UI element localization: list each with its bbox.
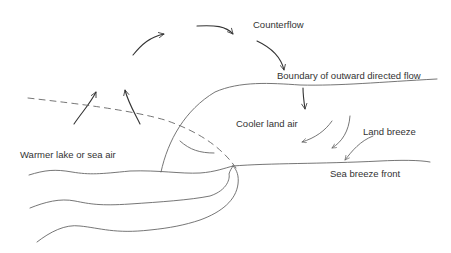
sea-breeze-front-line (233, 160, 430, 166)
rising-arrow-left-icon (74, 92, 96, 124)
label-warmer-air: Warmer lake or sea air (20, 150, 116, 160)
label-sea-breeze-front: Sea breeze front (330, 169, 400, 179)
land-breeze-arrow-2-icon (332, 116, 350, 148)
rising-arrow-right-icon (125, 90, 140, 124)
top-arrow-icon (197, 26, 233, 34)
label-boundary: Boundary of outward directed flow (277, 71, 421, 81)
circulation-arrows (74, 26, 305, 124)
land-breeze-arrow-1-icon (302, 121, 332, 142)
downward-arrow-icon (303, 88, 305, 109)
upper-left-arrow-icon (133, 34, 164, 55)
land-breeze-diagram: Counterflow Boundary of outward directed… (0, 0, 451, 253)
label-cooler-land-air: Cooler land air (236, 119, 298, 129)
land-breeze-arrows (302, 116, 373, 160)
inner-curve (180, 141, 214, 153)
counterflow-arrow-icon (257, 41, 284, 70)
land-breeze-arrow-3-icon (345, 136, 373, 160)
label-counterflow: Counterflow (253, 20, 304, 30)
label-land-breeze: Land breeze (363, 127, 416, 137)
water-lines (29, 166, 238, 242)
